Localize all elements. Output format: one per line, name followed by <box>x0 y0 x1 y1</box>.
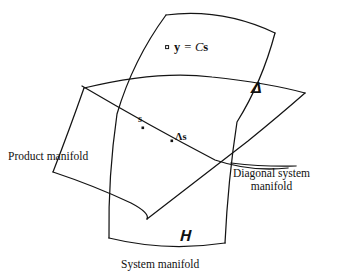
diagonal-system-manifold-arc <box>82 86 288 169</box>
diagram-canvas <box>0 0 342 278</box>
system-manifold-right-edge <box>225 33 275 243</box>
point-marker-s <box>142 127 145 130</box>
system-manifold-bottom-edge <box>109 238 225 247</box>
product-manifold-upper-edge <box>84 75 305 93</box>
point-marker-lambda-s <box>171 140 174 143</box>
diagonal-label-leader-line <box>231 163 296 166</box>
diagonal-system-manifold-label-line2: manifold <box>233 180 310 193</box>
product-manifold-lower-right-edge <box>147 93 305 219</box>
point-marker-y-equals-cs <box>166 46 169 49</box>
product-manifold-label: Product manifold <box>8 150 88 163</box>
script-s-label: 𝚮 <box>179 228 190 245</box>
output-equation-label: y = Cs <box>174 40 208 54</box>
point-label-s: s <box>138 113 142 125</box>
system-manifold-left-edge <box>109 15 166 238</box>
manifold-diagram: y = Cs s Λs 𝚫 𝚮 Product manifold Diagona… <box>0 0 342 278</box>
system-manifold-label: System manifold <box>121 258 199 271</box>
diagonal-system-manifold-label-line1: Diagonal system <box>233 167 310 180</box>
diagonal-system-manifold-curve <box>82 86 288 169</box>
product-manifold-surface <box>53 75 305 219</box>
script-p-label: 𝚫 <box>250 80 261 97</box>
product-manifold-lower-left-edge <box>53 172 147 219</box>
diagonal-system-manifold-label: Diagonal system manifold <box>233 167 310 193</box>
point-label-lambda-s: Λs <box>175 131 187 143</box>
system-manifold-top-edge <box>166 13 275 33</box>
